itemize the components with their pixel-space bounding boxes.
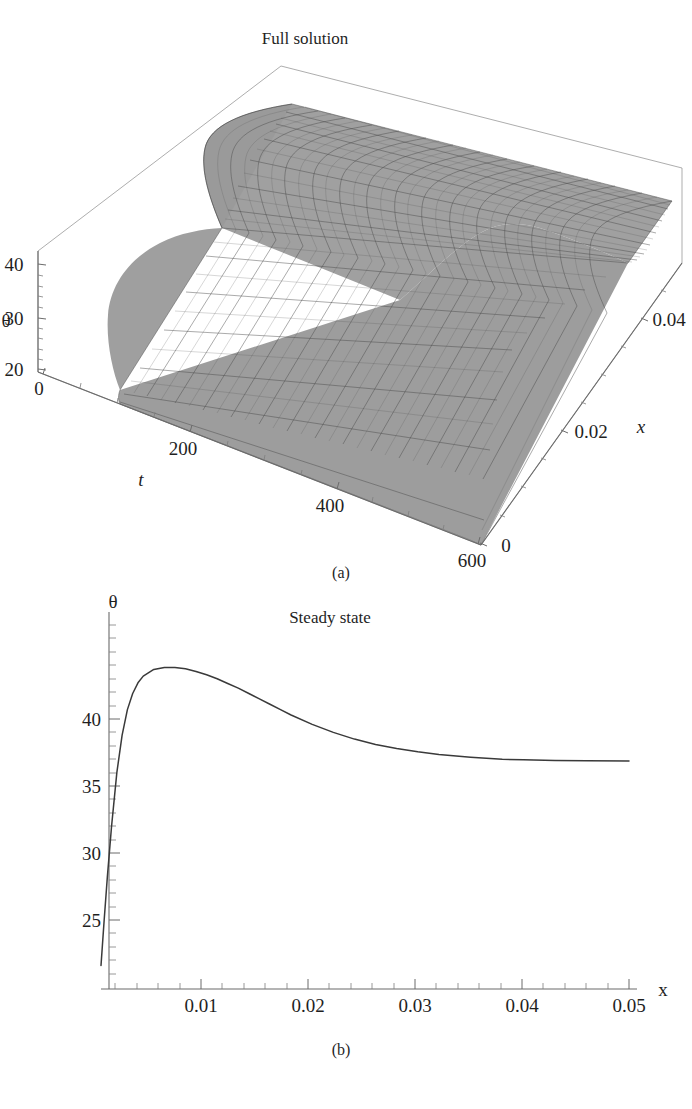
theta-surface bbox=[108, 104, 672, 545]
panel-b-title: Steady state bbox=[289, 608, 371, 627]
panel-b-steady-state: Steady state 40 35 30 25 bbox=[0, 590, 692, 1109]
steady-x-axis: 0.01 0.02 0.03 0.04 0.05 x bbox=[101, 979, 668, 1016]
theta-axis: 40 30 20 θ bbox=[1, 251, 46, 380]
panel-a-caption: (a) bbox=[332, 564, 350, 582]
steady-y-axis-label: θ bbox=[108, 591, 117, 612]
steady-y-minor-ticks bbox=[109, 625, 116, 974]
surface-plot-svg: Full solution bbox=[0, 0, 692, 590]
steady-x-tick-002: 0.02 bbox=[291, 995, 324, 1016]
panel-b-caption: (b) bbox=[332, 1041, 351, 1059]
theta-tick-40: 40 bbox=[5, 254, 24, 275]
steady-state-plot-svg: Steady state 40 35 30 25 bbox=[0, 590, 692, 1109]
steady-x-tick-005: 0.05 bbox=[612, 995, 645, 1016]
steady-y-axis: 40 35 30 25 bbox=[82, 591, 120, 989]
t-tick-200: 200 bbox=[169, 438, 198, 459]
steady-x-minor-ticks bbox=[115, 983, 608, 989]
t-axis-label: t bbox=[138, 469, 144, 490]
t-tick-600: 600 bbox=[458, 550, 487, 571]
steady-state-curve bbox=[101, 667, 629, 965]
steady-y-tick-25: 25 bbox=[82, 910, 101, 931]
steady-y-tick-30: 30 bbox=[82, 843, 101, 864]
x3d-axis-label: x bbox=[636, 416, 646, 437]
steady-x-axis-label: x bbox=[658, 979, 668, 1000]
steady-x-tick-001: 0.01 bbox=[184, 995, 217, 1016]
panel-a-title: Full solution bbox=[262, 29, 349, 48]
x3d-tick-0: 0 bbox=[501, 535, 511, 556]
t-tick-400: 400 bbox=[316, 495, 345, 516]
theta-axis-label: θ bbox=[1, 310, 10, 331]
steady-y-tick-35: 35 bbox=[82, 776, 101, 797]
steady-y-tick-40: 40 bbox=[82, 709, 101, 730]
steady-x-tick-004: 0.04 bbox=[505, 995, 539, 1016]
panel-a-full-solution: Full solution bbox=[0, 0, 692, 590]
t-tick-0: 0 bbox=[34, 378, 44, 399]
steady-x-tick-003: 0.03 bbox=[398, 995, 431, 1016]
figure-container: Full solution bbox=[0, 0, 692, 1109]
theta-tick-20: 20 bbox=[5, 359, 24, 380]
x3d-tick-002: 0.02 bbox=[574, 421, 607, 442]
x3d-tick-004: 0.04 bbox=[652, 309, 686, 330]
